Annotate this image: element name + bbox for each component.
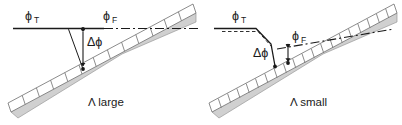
node-top-left bbox=[81, 27, 85, 31]
phi-f-label-left: ϕ bbox=[103, 9, 110, 23]
phi-t-label-right: ϕ bbox=[232, 9, 239, 23]
two-panel-grating-diagram: ϕ T ϕ F Δϕ Λ large bbox=[0, 0, 402, 125]
phi-f-subscript-right: F bbox=[301, 35, 306, 45]
node-bottom-right bbox=[286, 61, 290, 65]
phi-f-subscript-left: F bbox=[112, 15, 117, 25]
phi-t-subscript-left: T bbox=[34, 15, 39, 25]
phi-t-subscript-right: T bbox=[241, 15, 246, 25]
figure-canvas: ϕ T ϕ F Δϕ Λ large bbox=[0, 0, 402, 125]
phi-f-label-right: ϕ bbox=[292, 29, 299, 43]
figure-background bbox=[0, 0, 402, 125]
node-top-right bbox=[286, 44, 289, 47]
delta-phi-label-left: Δϕ bbox=[87, 35, 102, 49]
caption-right: Λ small bbox=[290, 96, 327, 108]
phi-t-label-left: ϕ bbox=[25, 9, 32, 23]
node-bottom-left bbox=[81, 67, 85, 71]
node-surface-right bbox=[273, 65, 277, 69]
caption-left: Λ large bbox=[88, 96, 124, 108]
delta-phi-label-right: Δϕ bbox=[253, 46, 268, 60]
